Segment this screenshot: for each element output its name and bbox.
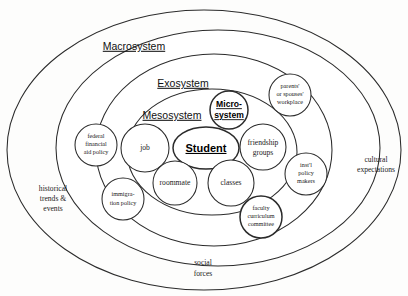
- label-immigration-line1: immigra-: [111, 190, 134, 197]
- label-cultural-expectations-line2: expectations: [357, 165, 395, 174]
- ecological-systems-diagram: Macrosystem Exosystem Mesosystem Micro- …: [0, 0, 408, 296]
- label-social-forces-line2: forces: [194, 269, 213, 278]
- label-historical-trends-line1: historical: [39, 184, 67, 193]
- label-faculty-line2: curriculum: [247, 212, 274, 219]
- label-historical-trends-line2: trends &: [40, 194, 66, 203]
- label-classes: classes: [220, 178, 241, 187]
- heading-microsystem-line2: system: [214, 110, 244, 120]
- label-cultural-expectations-line1: cultural: [364, 155, 387, 164]
- label-job: job: [139, 143, 150, 152]
- label-policy-makers-line3: makers: [297, 177, 315, 184]
- systems-diagram-canvas: Macrosystem Exosystem Mesosystem Micro- …: [0, 0, 408, 296]
- label-policy-makers-line2: policy: [298, 169, 314, 176]
- heading-exosystem: Exosystem: [157, 77, 209, 89]
- label-faculty-line3: committee: [248, 220, 274, 227]
- label-federal-aid-line3: aid policy: [84, 148, 109, 155]
- label-policy-makers-line1: inst'l: [300, 161, 312, 168]
- label-historical-trends-line3: events: [43, 204, 62, 213]
- label-workplace-line2: or spouses': [276, 90, 303, 97]
- label-roommate: roommate: [160, 178, 191, 187]
- heading-mesosystem: Mesosystem: [143, 109, 202, 121]
- label-workplace-line3: workplace: [277, 98, 303, 105]
- label-social-forces-line1: social: [194, 258, 212, 267]
- heading-microsystem-line1: Micro-: [216, 99, 242, 109]
- label-federal-aid-line1: federal: [87, 132, 104, 139]
- label-student: Student: [186, 142, 227, 154]
- label-immigration-line2: tion policy: [110, 199, 138, 206]
- label-friendship-line1: friendship: [248, 138, 279, 147]
- label-friendship-line2: groups: [253, 148, 274, 157]
- label-federal-aid-line2: financial: [85, 140, 107, 147]
- heading-macrosystem: Macrosystem: [103, 40, 166, 52]
- label-faculty-line1: faculty: [252, 204, 270, 211]
- label-workplace-line1: parents': [281, 82, 300, 89]
